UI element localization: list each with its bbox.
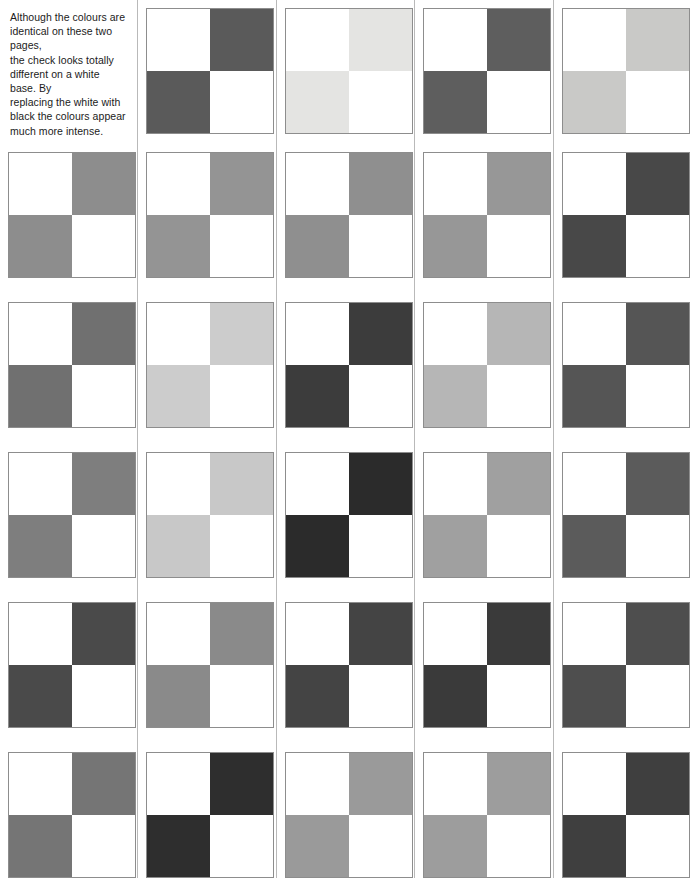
checker-tile — [562, 602, 690, 728]
quadrant-bottom-right — [349, 365, 412, 427]
checker-tile-inner — [146, 752, 274, 878]
quadrant-top-left — [9, 153, 72, 215]
checker-tile — [285, 752, 413, 878]
quadrant-top-left — [147, 9, 210, 71]
checker-tile — [146, 8, 274, 134]
quadrant-bottom-right — [349, 815, 412, 877]
checker-tile-grid — [0, 0, 700, 878]
quadrant-bottom-left — [286, 815, 349, 877]
quadrant-bottom-left — [563, 71, 626, 133]
checker-tile — [146, 452, 274, 578]
quadrant-bottom-left — [147, 815, 210, 877]
quadrant-top-right — [349, 603, 412, 665]
checker-tile-inner — [285, 8, 413, 134]
quadrant-bottom-left — [424, 215, 487, 277]
checker-tile — [423, 752, 551, 878]
quadrant-bottom-right — [72, 515, 135, 577]
quadrant-top-left — [147, 303, 210, 365]
quadrant-top-left — [563, 303, 626, 365]
quadrant-bottom-left — [424, 815, 487, 877]
quadrant-bottom-right — [487, 71, 550, 133]
checker-tile-inner — [146, 8, 274, 134]
checker-tile-inner — [8, 152, 136, 278]
checker-tile — [8, 602, 136, 728]
quadrant-bottom-left — [147, 215, 210, 277]
quadrant-top-right — [626, 453, 689, 515]
checker-tile — [285, 8, 413, 134]
quadrant-bottom-right — [626, 665, 689, 727]
quadrant-top-right — [349, 153, 412, 215]
checker-tile-inner — [285, 302, 413, 428]
quadrant-bottom-left — [286, 71, 349, 133]
quadrant-top-right — [72, 753, 135, 815]
quadrant-top-left — [9, 603, 72, 665]
quadrant-bottom-right — [72, 815, 135, 877]
checker-tile-inner — [423, 752, 551, 878]
quadrant-top-left — [286, 303, 349, 365]
quadrant-top-right — [210, 603, 273, 665]
quadrant-bottom-right — [487, 815, 550, 877]
quadrant-bottom-left — [147, 515, 210, 577]
quadrant-top-right — [487, 153, 550, 215]
quadrant-top-left — [563, 603, 626, 665]
quadrant-bottom-left — [563, 515, 626, 577]
quadrant-top-right — [487, 753, 550, 815]
quadrant-top-left — [9, 753, 72, 815]
checker-tile — [146, 152, 274, 278]
quadrant-bottom-right — [349, 665, 412, 727]
quadrant-bottom-left — [147, 665, 210, 727]
quadrant-bottom-left — [9, 815, 72, 877]
checker-tile — [423, 452, 551, 578]
quadrant-bottom-right — [210, 71, 273, 133]
checker-tile — [146, 752, 274, 878]
quadrant-bottom-left — [9, 515, 72, 577]
quadrant-bottom-right — [626, 215, 689, 277]
checker-tile — [285, 452, 413, 578]
quadrant-top-right — [72, 603, 135, 665]
quadrant-bottom-left — [424, 665, 487, 727]
quadrant-top-left — [9, 453, 72, 515]
quadrant-bottom-right — [487, 665, 550, 727]
quadrant-top-right — [210, 453, 273, 515]
checker-tile — [562, 752, 690, 878]
quadrant-top-right — [210, 753, 273, 815]
checker-tile — [562, 302, 690, 428]
checker-tile-inner — [285, 152, 413, 278]
checker-tile-inner — [562, 8, 690, 134]
quadrant-top-left — [424, 303, 487, 365]
checker-tile-inner — [423, 302, 551, 428]
quadrant-bottom-left — [286, 665, 349, 727]
quadrant-bottom-right — [210, 215, 273, 277]
checker-tile — [423, 8, 551, 134]
checker-tile-inner — [146, 452, 274, 578]
checker-tile-inner — [8, 452, 136, 578]
quadrant-bottom-right — [349, 215, 412, 277]
checker-tile — [423, 152, 551, 278]
quadrant-bottom-right — [72, 665, 135, 727]
checker-tile-inner — [423, 152, 551, 278]
quadrant-bottom-left — [9, 665, 72, 727]
quadrant-top-right — [349, 753, 412, 815]
checker-tile — [8, 152, 136, 278]
quadrant-top-right — [72, 453, 135, 515]
checker-tile — [146, 302, 274, 428]
quadrant-top-right — [626, 9, 689, 71]
checker-tile-inner — [146, 302, 274, 428]
checker-tile-inner — [285, 602, 413, 728]
checker-tile — [8, 752, 136, 878]
quadrant-top-right — [210, 303, 273, 365]
quadrant-top-left — [286, 603, 349, 665]
quadrant-top-left — [286, 453, 349, 515]
quadrant-top-right — [72, 153, 135, 215]
quadrant-bottom-right — [210, 665, 273, 727]
quadrant-top-right — [626, 753, 689, 815]
quadrant-top-right — [210, 9, 273, 71]
checker-tile-inner — [285, 452, 413, 578]
quadrant-top-left — [563, 453, 626, 515]
quadrant-top-right — [626, 603, 689, 665]
checker-tile — [423, 302, 551, 428]
checker-tile — [423, 602, 551, 728]
checker-tile — [285, 302, 413, 428]
quadrant-bottom-left — [286, 215, 349, 277]
quadrant-top-right — [487, 303, 550, 365]
